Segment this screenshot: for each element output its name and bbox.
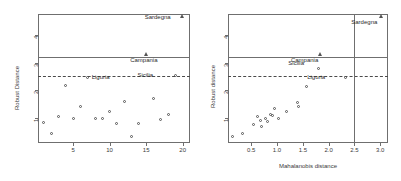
point-label-liguria: Liguria <box>92 74 110 81</box>
reference-hline-dashed <box>38 76 190 77</box>
y-tick-label: 3 <box>223 63 229 66</box>
data-point-triangle <box>379 14 383 18</box>
x-tick-label: 15 <box>134 147 158 154</box>
x-tick-label: 20 <box>171 147 195 154</box>
data-point-circle <box>273 107 276 110</box>
reference-vline-solid <box>354 14 355 143</box>
x-tick-label: 0.5 <box>239 147 263 154</box>
y-tick-label: 1 <box>33 119 39 122</box>
x-tick <box>73 143 74 146</box>
data-point-circle <box>50 132 53 135</box>
right-plot-panel: 0.51.01.52.02.53.01234SardegnaCampaniaSi… <box>200 0 401 181</box>
point-label-campania: Campania <box>130 57 157 64</box>
x-tick-label: 3.0 <box>368 147 392 154</box>
data-point-circle <box>231 135 234 138</box>
y-tick-label: 2 <box>33 91 39 94</box>
x-tick <box>329 143 330 146</box>
x-tick-label: 1.0 <box>265 147 289 154</box>
data-point-circle <box>123 100 126 103</box>
figure-canvas: 51015201234SardegnaCampaniaSiciliaLiguri… <box>0 0 401 181</box>
data-point-circle <box>167 113 170 116</box>
data-point-circle <box>256 115 259 118</box>
data-point-circle <box>317 67 320 70</box>
data-point-triangle <box>318 52 322 56</box>
x-tick <box>303 143 304 146</box>
x-tick-label: 5 <box>61 147 85 154</box>
left-y-axis-title: Robust Distance <box>14 66 20 110</box>
data-point-circle <box>79 105 82 108</box>
left-plot-frame <box>38 14 190 143</box>
point-label-sardegna: Sardegna <box>145 14 171 21</box>
data-point-circle <box>57 115 60 118</box>
point-label-sardegna: Sardegna <box>351 19 377 26</box>
y-tick-label: 1 <box>223 119 229 122</box>
data-point-circle <box>260 125 263 128</box>
data-point-circle <box>130 135 133 138</box>
data-point-circle <box>159 118 162 121</box>
right-x-axis-title: Mahalanobis distance <box>228 163 388 169</box>
point-label-sicilia: Sicilia <box>288 60 304 67</box>
x-tick-label: 10 <box>98 147 122 154</box>
data-point-circle <box>259 119 262 122</box>
data-point-circle <box>241 132 244 135</box>
y-tick-label: 4 <box>33 35 39 38</box>
x-tick <box>251 143 252 146</box>
data-point-triangle <box>180 14 184 18</box>
x-tick <box>380 143 381 146</box>
x-tick <box>183 143 184 146</box>
y-tick-label: 4 <box>223 35 229 38</box>
x-tick-label: 2.0 <box>317 147 341 154</box>
data-point-circle <box>277 117 280 120</box>
y-tick-label: 2 <box>223 91 229 94</box>
point-label-sicilia: Sicilia <box>137 72 153 79</box>
x-tick <box>146 143 147 146</box>
x-tick <box>277 143 278 146</box>
left-plot-panel: 51015201234SardegnaCampaniaSiciliaLiguri… <box>0 0 200 181</box>
x-tick <box>354 143 355 146</box>
x-tick-label: 1.5 <box>291 147 315 154</box>
data-point-triangle <box>144 52 148 56</box>
y-tick-label: 3 <box>33 63 39 66</box>
x-tick-label: 2.5 <box>342 147 366 154</box>
x-tick <box>110 143 111 146</box>
reference-hline-solid <box>38 57 190 58</box>
right-y-axis-title: Robust distance <box>210 65 216 108</box>
point-label-liguria: Liguria <box>307 74 325 81</box>
